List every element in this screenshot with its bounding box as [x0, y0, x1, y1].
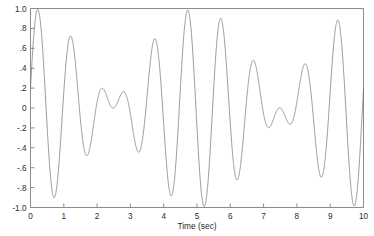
y-tick-label: .8 [20, 24, 27, 33]
x-tick-label: 0 [28, 212, 33, 221]
y-tick-label: 0 [22, 104, 27, 113]
y-tick-label: .6 [20, 44, 27, 53]
x-tick-label: 1 [62, 212, 67, 221]
x-axis-ticks [31, 204, 364, 208]
x-tick-label: 4 [161, 212, 166, 221]
y-tick-label: 1.0 [15, 5, 27, 14]
data-series-group [31, 9, 364, 206]
plot-frame [31, 9, 364, 208]
x-tick-label: 2 [95, 212, 100, 221]
x-tick-label: 3 [128, 212, 133, 221]
y-axis-tick-labels: -1.0-.8-.6-.4-.20.2.4.6.81.0 [12, 5, 27, 213]
figure-canvas: -1.0-.8-.6-.4-.20.2.4.6.81.0 01234567891… [0, 0, 374, 236]
y-tick-label: -.6 [17, 164, 27, 173]
x-axis-title: Time (sec) [177, 221, 216, 231]
x-tick-label: 6 [228, 212, 233, 221]
x-tick-label: 5 [195, 212, 200, 221]
y-tick-label: -.8 [17, 184, 27, 193]
y-tick-label: .2 [20, 84, 27, 93]
x-tick-label: 9 [328, 212, 333, 221]
x-tick-label: 10 [359, 212, 369, 221]
y-tick-label: .4 [20, 64, 27, 73]
y-tick-label: -.2 [17, 124, 27, 133]
y-tick-label: -1.0 [12, 204, 27, 213]
x-tick-label: 7 [261, 212, 266, 221]
y-tick-label: -.4 [17, 144, 27, 153]
x-axis-tick-labels: 012345678910 [28, 212, 368, 221]
chart-plot: -1.0-.8-.6-.4-.20.2.4.6.81.0 01234567891… [0, 0, 374, 236]
series-line-beat-signal [31, 9, 364, 206]
x-tick-label: 8 [295, 212, 300, 221]
